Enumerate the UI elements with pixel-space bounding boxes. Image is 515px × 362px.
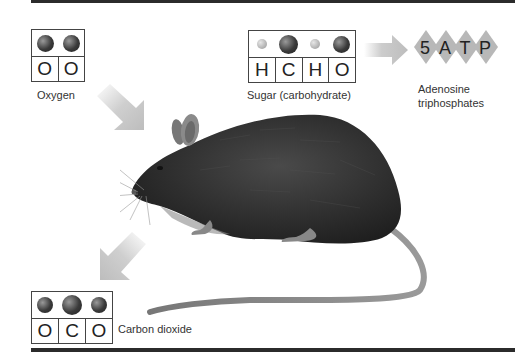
co2-out-arrow-icon bbox=[84, 232, 156, 290]
hydrogen-atom-icon bbox=[257, 39, 267, 49]
carbon-dioxide-molecule: O C O bbox=[31, 291, 113, 344]
element-symbol: H bbox=[249, 58, 276, 82]
hydrogen-atom-icon bbox=[310, 39, 320, 49]
sugar-molecule: H C H O bbox=[248, 30, 356, 83]
oxygen-atom-icon bbox=[91, 297, 107, 313]
sugar-to-atp-arrow-icon bbox=[364, 34, 410, 66]
atp-glyph: 5 bbox=[414, 38, 436, 59]
element-symbol: H bbox=[303, 58, 330, 82]
oxygen-atom-icon bbox=[333, 36, 350, 53]
element-symbol: O bbox=[32, 57, 59, 81]
oxygen-molecule: O O bbox=[31, 29, 85, 82]
carbon-dioxide-label: Carbon dioxide bbox=[118, 322, 192, 336]
atp-glyph: T bbox=[454, 38, 476, 59]
atp-glyph: P bbox=[474, 38, 496, 59]
element-symbol: O bbox=[329, 58, 355, 82]
atp-group: 5 A T P bbox=[414, 30, 494, 64]
atp-diamond: 5 bbox=[414, 30, 436, 64]
atp-label-line1: Adenosine bbox=[418, 82, 484, 96]
element-symbol: C bbox=[59, 319, 86, 343]
carbon-atom-icon bbox=[279, 35, 298, 54]
oxygen-atom-icon bbox=[37, 35, 54, 52]
element-symbol: C bbox=[276, 58, 303, 82]
mouse-illustration bbox=[120, 100, 450, 320]
atp-diamond: A bbox=[434, 30, 456, 64]
atp-diamond: T bbox=[454, 30, 476, 64]
element-symbol: O bbox=[59, 57, 85, 81]
atp-diamond: P bbox=[474, 30, 496, 64]
carbon-atom-icon bbox=[62, 295, 82, 315]
bottom-rule bbox=[31, 348, 515, 352]
element-symbol: O bbox=[32, 319, 59, 343]
oxygen-atom-icon bbox=[37, 297, 53, 313]
oxygen-label: Oxygen bbox=[37, 88, 75, 102]
element-symbol: O bbox=[86, 319, 112, 343]
atp-glyph: A bbox=[434, 38, 456, 59]
oxygen-atom-icon bbox=[63, 35, 80, 52]
top-rule bbox=[31, 0, 515, 3]
